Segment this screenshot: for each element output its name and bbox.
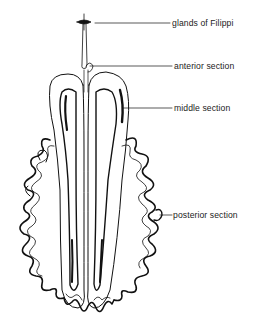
- label-middle-section: middle section: [174, 103, 230, 113]
- label-anterior-section: anterior section: [174, 61, 234, 71]
- silk-gland-illustration: [0, 0, 254, 321]
- label-glands-of-filippi: glands of Filippi: [172, 18, 233, 28]
- label-posterior-section: posterior section: [173, 210, 238, 220]
